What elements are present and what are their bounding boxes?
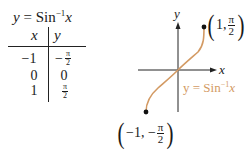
fraction: π 2 bbox=[157, 122, 165, 145]
open-paren: ( bbox=[118, 118, 125, 148]
fraction-denominator: 2 bbox=[158, 134, 164, 145]
point-label-top: ( 1, π 2 ) bbox=[206, 10, 246, 40]
close-paren: ) bbox=[238, 10, 245, 40]
close-paren: ) bbox=[167, 118, 174, 148]
curve-label-arg: x bbox=[229, 80, 235, 95]
fraction-numerator: π bbox=[157, 122, 165, 134]
curve-label-exp: −1 bbox=[221, 80, 230, 89]
y-axis-label: y bbox=[174, 6, 180, 22]
x-axis-arrow-icon bbox=[210, 68, 217, 73]
point-x: −1, − bbox=[126, 125, 156, 141]
fraction-denominator: 2 bbox=[229, 26, 235, 37]
open-paren: ( bbox=[208, 10, 215, 40]
endpoint-bottom bbox=[144, 110, 149, 115]
curve-label-lhs: y = Sin bbox=[183, 80, 221, 95]
fraction-numerator: π bbox=[228, 14, 236, 26]
fraction: π 2 bbox=[228, 14, 236, 37]
y-axis-arrow-icon bbox=[176, 22, 181, 29]
curve-label: y = Sin−1x bbox=[183, 80, 235, 96]
x-axis-label: x bbox=[219, 62, 225, 78]
point-x: 1, bbox=[216, 17, 227, 33]
point-label-bottom: ( −1, − π 2 ) bbox=[116, 118, 175, 148]
